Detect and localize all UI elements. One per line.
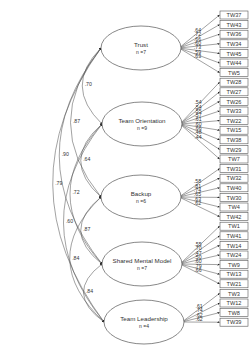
factor-n: n =6 [136,198,146,204]
factor-name: Backup [131,190,152,197]
factor-ellipse-team-leadership [104,300,184,344]
latent-factors: Trustn =7Team Orientationn =9Backupn =6S… [101,26,184,344]
loading-value: .63 [194,53,201,59]
indicator-label: TW27 [227,89,242,95]
correlation-value: .72 [72,189,79,195]
correlation-value: .84 [86,288,93,294]
indicator-label: TW3 [228,291,240,297]
loading-value: .62 [194,200,201,206]
cfa-path-diagram: .70.87.90.79.64.72.60.87.84.84 TW37.64TW… [0,0,252,346]
correlation-value: .79 [55,180,62,186]
indicator-label: TW29 [227,147,242,153]
correlation-value: .70 [85,81,92,87]
indicator-label: TW38 [227,137,242,143]
loading-value: .62 [195,316,202,322]
indicator-label: TW32 [227,175,242,181]
indicator-label: TW1 [228,223,240,229]
indicator-label: TW15 [227,127,242,133]
indicator-label: TW28 [227,79,242,85]
indicator-label: TW39 [227,319,242,325]
indicator-label: TW37 [227,12,242,18]
factor-name: Shared Mental Model [113,257,172,264]
correlation-value: .87 [83,226,90,232]
indicator-label: TW21 [227,281,242,287]
factor-name: Team Leadership [120,315,168,322]
indicator-label: TW12 [227,300,242,306]
indicator-label: TW33 [227,108,242,114]
indicator-label: TW43 [227,22,242,28]
indicator-label: TW45 [227,51,242,57]
indicator-label: TW5 [228,70,240,76]
indicator-label: TW24 [227,252,242,258]
indicator-label: TW41 [227,233,242,239]
indicator-label: TW44 [227,60,242,66]
factor-name: Trust [134,41,148,48]
indicator-label: TW36 [227,31,242,37]
factor-correlations: .70.87.90.79.64.72.60.87.84.84 [53,48,104,322]
indicator-label: TW34 [227,41,242,47]
factor-ellipse-shared-mental-model [102,242,182,286]
indicator-label: TW4 [228,204,240,210]
indicator-label: TW13 [227,271,242,277]
indicator-label: TW42 [227,214,242,220]
indicator-label: TW40 [227,185,242,191]
loading-value: .44 [194,134,201,140]
factor-n: n =4 [139,323,149,329]
indicator-label: TW26 [227,99,242,105]
correlation-value: .84 [72,255,79,261]
factor-n: n =7 [137,265,147,271]
loading-value: .66 [194,267,201,273]
factor-name: Team Orientation [118,117,166,124]
indicator-label: TW30 [227,195,242,201]
indicator-label: TW7 [228,156,240,162]
factor-ellipse-trust [101,26,181,70]
indicator-label: TW8 [228,310,240,316]
indicator-label: TW14 [227,243,242,249]
factor-ellipse-team-orientation [102,102,182,146]
correlation-value: .87 [73,118,80,124]
factor-loadings: TW37.64TW43.72TW36.66TW34.60TW45.73TW44.… [179,11,248,326]
indicator-label: TW22 [227,118,242,124]
factor-n: n =9 [137,125,147,131]
factor-n: n =7 [136,49,146,55]
correlation-value: .64 [83,156,90,162]
correlation-value: .60 [66,218,73,224]
indicator-label: TW9 [228,262,240,268]
factor-ellipse-backup [101,175,181,219]
correlation-value: .90 [62,151,69,157]
indicator-label: TW31 [227,166,242,172]
